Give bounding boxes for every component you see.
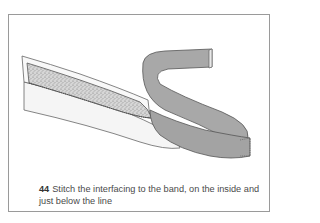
- figure-caption-text: Stitch the interfacing to the band, on t…: [39, 184, 259, 206]
- figure-caption: 44Stitch the interfacing to the band, on…: [39, 184, 269, 207]
- figure-number: 44: [39, 184, 49, 194]
